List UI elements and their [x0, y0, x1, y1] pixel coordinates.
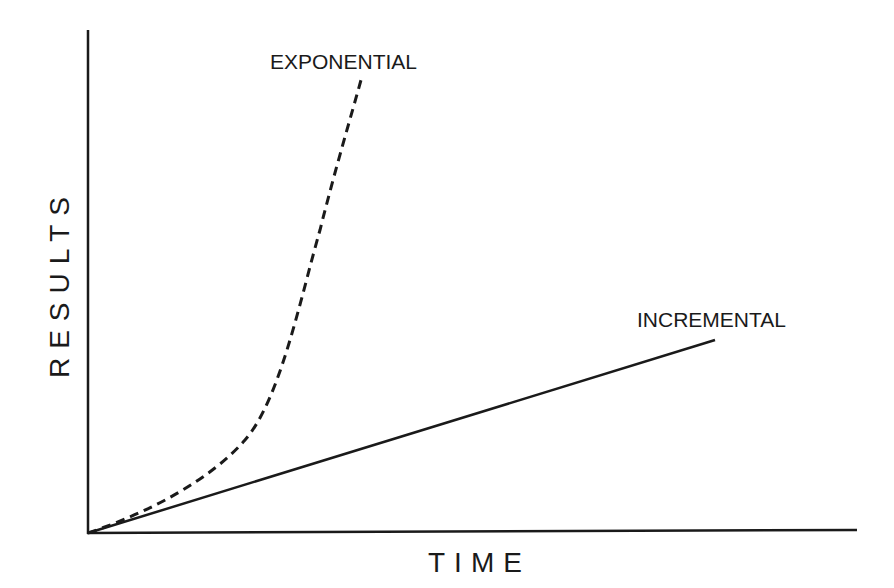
chart-canvas [0, 0, 894, 588]
x-axis [87, 530, 857, 533]
exponential-label: EXPONENTIAL [270, 50, 417, 74]
exponential-curve [88, 80, 361, 533]
incremental-line [88, 340, 715, 533]
x-axis-label: TIME [428, 547, 531, 579]
y-axis-label: RESULTS [44, 188, 76, 378]
incremental-label: INCREMENTAL [637, 308, 786, 332]
